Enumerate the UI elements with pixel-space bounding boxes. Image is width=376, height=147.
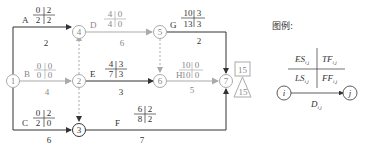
activity-d-params: D 4 0 4 0 6 — [90, 9, 126, 48]
svg-text:2: 2 — [36, 118, 41, 128]
svg-text:10: 10 — [182, 60, 192, 70]
svg-text:6: 6 — [47, 135, 52, 145]
svg-text:j: j — [348, 88, 352, 98]
svg-text:0: 0 — [48, 70, 53, 80]
svg-text:5: 5 — [190, 85, 195, 95]
svg-text:0: 0 — [36, 5, 41, 15]
svg-text:2: 2 — [44, 38, 49, 48]
svg-text:2: 2 — [77, 76, 82, 86]
svg-text:4: 4 — [108, 9, 113, 19]
svg-text:A: A — [22, 15, 29, 25]
activity-f-arrow — [86, 89, 226, 130]
svg-text:0: 0 — [36, 108, 41, 118]
activity-e-params: E 4 3 7 3 3 — [90, 59, 127, 97]
svg-text:B: B — [24, 69, 30, 79]
svg-text:3: 3 — [197, 19, 202, 29]
svg-text:2: 2 — [148, 114, 153, 124]
node-4: 4 — [73, 26, 86, 39]
svg-text:7: 7 — [140, 135, 145, 145]
svg-text:0: 0 — [118, 19, 123, 29]
legend-ls: LSi,j — [294, 73, 309, 85]
network-diagram: 1 2 3 4 5 6 7 A 0 2 2 2 2 B 0 0 — [0, 0, 376, 147]
legend-tf: TFi,j — [322, 54, 337, 66]
svg-text:2: 2 — [47, 108, 52, 118]
svg-text:3: 3 — [119, 59, 124, 69]
activity-b-params: B 0 0 0 0 4 — [24, 61, 56, 97]
svg-text:7: 7 — [109, 69, 114, 79]
svg-text:6: 6 — [120, 38, 125, 48]
svg-text:7: 7 — [224, 76, 229, 86]
svg-text:3: 3 — [197, 8, 202, 18]
svg-text:4: 4 — [108, 19, 113, 29]
svg-text:4: 4 — [77, 27, 82, 37]
svg-text:F: F — [115, 118, 120, 128]
svg-text:G: G — [170, 20, 177, 30]
legend-d: Di,j — [310, 99, 322, 111]
node-6: 6 — [154, 75, 167, 88]
svg-text:15: 15 — [239, 87, 249, 97]
legend: ESi,j TFi,j LSi,j FFi,j i j Di,j — [277, 48, 357, 111]
svg-text:0: 0 — [47, 118, 52, 128]
svg-text:2: 2 — [36, 15, 41, 25]
activity-c-params: C 0 2 2 0 6 — [22, 108, 55, 145]
svg-text:3: 3 — [119, 69, 124, 79]
node-1: 1 — [7, 75, 20, 88]
node-3: 3 — [73, 124, 86, 137]
activity-f-params: F 6 2 8 2 7 — [115, 104, 156, 145]
svg-text:6: 6 — [138, 104, 143, 114]
svg-text:E: E — [90, 69, 96, 79]
svg-text:3: 3 — [77, 125, 82, 135]
activity-g-params: G 10 3 13 3 2 — [170, 8, 205, 46]
svg-text:1: 1 — [11, 76, 16, 86]
svg-text:0: 0 — [195, 70, 200, 80]
svg-text:4: 4 — [109, 59, 114, 69]
node-5: 5 — [154, 26, 167, 39]
svg-text:8: 8 — [138, 114, 143, 124]
activity-a-arrow — [13, 27, 71, 74]
legend-ff: FFi,j — [321, 73, 338, 85]
svg-text:2: 2 — [197, 36, 202, 46]
node-2: 2 — [73, 75, 86, 88]
svg-text:4: 4 — [45, 87, 50, 97]
svg-text:2: 2 — [148, 104, 153, 114]
svg-text:13: 13 — [184, 19, 194, 29]
legend-es: ESi,j — [294, 54, 310, 66]
svg-text:2: 2 — [47, 5, 52, 15]
legend-title: 图例: — [272, 19, 293, 32]
svg-text:15: 15 — [238, 65, 248, 75]
activity-h-params: H 10 0 10 0 5 — [176, 60, 203, 95]
svg-text:0: 0 — [195, 60, 200, 70]
svg-text:D: D — [90, 20, 97, 30]
svg-text:6: 6 — [158, 76, 163, 86]
svg-text:10: 10 — [182, 70, 192, 80]
node-7: 7 — [220, 75, 233, 88]
svg-text:3: 3 — [119, 87, 124, 97]
svg-text:C: C — [22, 118, 28, 128]
computed-duration-box: 15 — [235, 62, 250, 76]
svg-text:0: 0 — [37, 70, 42, 80]
svg-text:10: 10 — [184, 8, 194, 18]
svg-text:5: 5 — [158, 27, 163, 37]
svg-text:2: 2 — [47, 15, 52, 25]
svg-text:0: 0 — [118, 9, 123, 19]
planned-duration-triangle: 15 — [234, 77, 251, 97]
